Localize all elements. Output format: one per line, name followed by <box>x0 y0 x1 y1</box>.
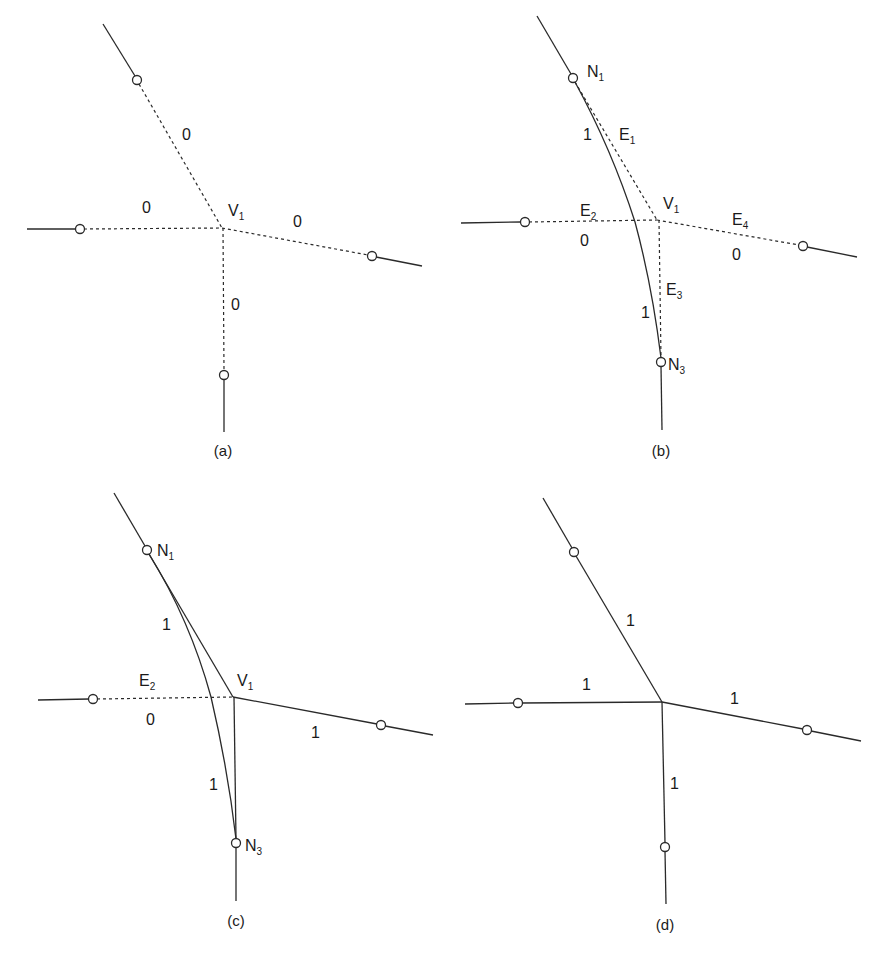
node-left <box>521 218 530 227</box>
weight-label: 1 <box>583 126 592 143</box>
node-n1 <box>569 74 578 83</box>
node-bottom <box>220 371 229 380</box>
edge-stub-right <box>807 247 857 257</box>
weight-label: 0 <box>580 232 589 249</box>
edge-bottom-dashed <box>223 228 224 371</box>
edge-label-e3: E3 <box>666 281 683 301</box>
edge-stub-right <box>811 731 861 741</box>
edge-left-dashed <box>84 228 222 229</box>
curved-path-n1-n3 <box>149 554 236 839</box>
weight-label: 0 <box>231 296 240 313</box>
node-right <box>803 726 812 735</box>
vertex-label: V1 <box>663 195 680 215</box>
panel-c: N1 N3 E2 V1 1 0 1 1 (c) <box>38 493 433 929</box>
edge-stub-top <box>537 16 571 74</box>
node-label-n3: N3 <box>245 837 263 857</box>
edge-v1-right <box>233 697 377 724</box>
panel-b: N1 N3 E1 E2 E3 E4 V1 1 1 0 0 (b) <box>461 16 857 459</box>
vertex-label: V1 <box>228 202 245 222</box>
weight-label: 1 <box>209 776 218 793</box>
node-bottom <box>661 843 670 852</box>
weight-label: 1 <box>311 724 320 741</box>
figure-canvas: 0 0 0 0 V1 (a) N1 N3 E1 E2 E3 E4 V1 1 1 … <box>0 0 877 954</box>
weight-label: 1 <box>641 304 650 321</box>
edge-stub-top <box>543 498 572 548</box>
node-right <box>368 252 377 261</box>
edge-label-e4: E4 <box>732 211 749 231</box>
weight-label: 0 <box>182 126 191 143</box>
weight-label: 1 <box>626 612 635 629</box>
edge-label-e2: E2 <box>139 672 156 692</box>
edge-label-e2: E2 <box>580 202 597 222</box>
edge-top-dashed <box>139 84 222 228</box>
weight-label: 0 <box>732 246 741 263</box>
edge-stub-right <box>385 726 433 735</box>
node-label-n1: N1 <box>157 542 175 562</box>
edge-stub-bottom <box>661 366 662 430</box>
node-right <box>377 721 386 730</box>
node-top <box>133 76 142 85</box>
node-top <box>570 548 579 557</box>
node-n3 <box>232 839 241 848</box>
weight-label: 0 <box>293 213 302 230</box>
node-left <box>76 225 85 234</box>
node-n1 <box>143 546 152 555</box>
panel-caption: (a) <box>214 442 232 459</box>
edge-e1-dashed <box>575 82 657 220</box>
weight-label: 0 <box>146 711 155 728</box>
edge-left <box>522 702 662 703</box>
node-left <box>89 695 98 704</box>
edge-stub-bottom <box>665 851 666 904</box>
edge-e2-dashed <box>97 697 233 699</box>
weight-label: 1 <box>582 676 591 693</box>
node-n3 <box>657 358 666 367</box>
weight-label: 0 <box>142 199 151 216</box>
edge-bottom <box>662 702 665 843</box>
panel-caption: (d) <box>656 916 674 933</box>
edge-stub-left <box>465 703 514 704</box>
node-right <box>799 242 808 251</box>
panel-caption: (b) <box>652 442 670 459</box>
weight-label: 1 <box>670 775 679 792</box>
weight-label: 1 <box>730 690 739 707</box>
edge-stub-left <box>38 699 89 700</box>
edge-stub-top <box>103 24 135 76</box>
vertex-label: V1 <box>237 672 254 692</box>
panel-d: 1 1 1 1 (d) <box>465 498 861 933</box>
panel-caption: (c) <box>227 912 245 929</box>
edge-stub-left <box>461 222 521 223</box>
node-label-n3: N3 <box>668 356 686 376</box>
edge-right-dashed <box>222 228 368 255</box>
edge-e4-dashed <box>657 220 799 245</box>
edge-v1-n3 <box>234 697 236 839</box>
edge-e3-dashed <box>659 220 661 358</box>
panel-a: 0 0 0 0 V1 (a) <box>27 24 422 459</box>
node-left <box>514 699 523 708</box>
edge-stub-right <box>376 257 422 266</box>
node-label-n1: N1 <box>587 63 605 83</box>
weight-label: 1 <box>162 616 171 633</box>
edge-stub-top <box>114 493 145 546</box>
edge-label-e1: E1 <box>619 126 636 146</box>
